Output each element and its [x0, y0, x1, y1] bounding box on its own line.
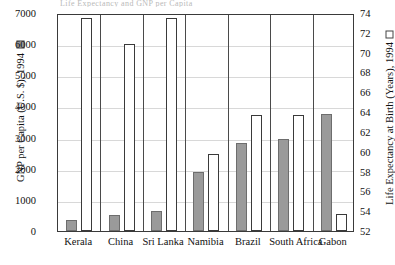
gnp-bar [193, 172, 204, 231]
life-expectancy-bar [166, 18, 177, 231]
category-label: Namibia [184, 236, 226, 247]
category-label: Sri Lanka [142, 236, 184, 247]
right-tick-label: 64 [360, 108, 384, 118]
left-tick-label: 6000 [0, 40, 36, 50]
left-tick-label: 2000 [0, 165, 36, 175]
life-expectancy-legend-swatch-icon [386, 30, 394, 38]
life-expectancy-bar [81, 18, 92, 231]
left-tick-label: 4000 [0, 102, 36, 112]
right-axis-title: Life Expectancy at Birth (Years), 1994 [384, 13, 395, 223]
category-label: Kerala [57, 236, 99, 247]
left-tick-label: 1000 [0, 196, 36, 206]
category-label: South Africa [269, 236, 311, 247]
gnp-bar [151, 211, 162, 231]
life-expectancy-bar [124, 44, 135, 231]
gnp-bar [109, 215, 120, 232]
gnp-bar [66, 220, 77, 231]
gnp-bar [278, 139, 289, 231]
chart-title-fragment: Life Expectancy and GNP per Capita [60, 0, 330, 7]
gnp-bar [321, 114, 332, 231]
bar-group [228, 15, 270, 231]
life-expectancy-bar [336, 214, 347, 231]
right-tick-label: 62 [360, 128, 384, 138]
right-tick-label: 54 [360, 207, 384, 217]
right-tick-label: 58 [360, 168, 384, 178]
gnp-bar [236, 143, 247, 231]
right-tick-label: 74 [360, 9, 384, 19]
category-label: China [99, 236, 141, 247]
left-tick-label: 5000 [0, 71, 36, 81]
right-axis-title-text: Life Expectancy at Birth (Years), 1994 [384, 42, 395, 205]
right-tick-label: 66 [360, 88, 384, 98]
bar-group [143, 15, 185, 231]
left-tick-label: 0 [0, 227, 36, 237]
category-label: Gabon [312, 236, 354, 247]
right-tick-label: 70 [360, 49, 384, 59]
category-label: Brazil [227, 236, 269, 247]
right-tick-label: 72 [360, 29, 384, 39]
bar-group [185, 15, 227, 231]
life-expectancy-bar [293, 115, 304, 231]
bar-group [58, 15, 100, 231]
right-tick-label: 52 [360, 227, 384, 237]
left-tick-label: 3000 [0, 134, 36, 144]
plot-area [57, 14, 354, 232]
life-expectancy-bar [251, 115, 262, 231]
bar-group [313, 15, 355, 231]
bar-group [100, 15, 142, 231]
right-tick-label: 60 [360, 148, 384, 158]
left-tick-label: 7000 [0, 9, 36, 19]
life-expectancy-bar [208, 154, 219, 231]
right-tick-label: 68 [360, 68, 384, 78]
right-tick-label: 56 [360, 187, 384, 197]
bar-group [270, 15, 312, 231]
